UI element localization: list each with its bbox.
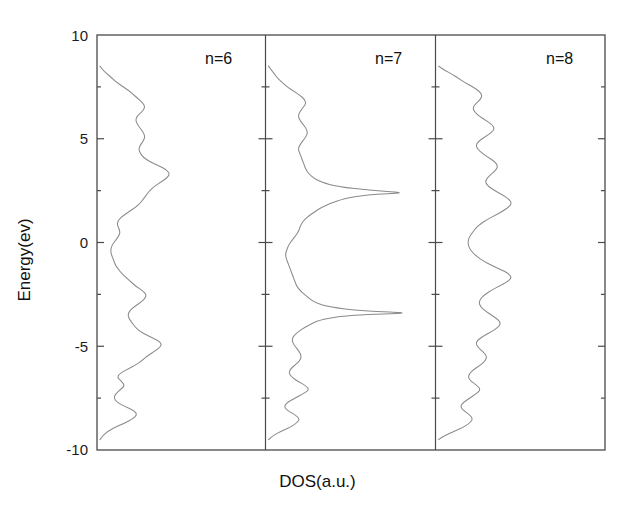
dos-figure: 10 5 0 -5 -10 n=6 n=7 n=8 Energy(ev) DOS…: [0, 0, 635, 514]
panel-label-n6: n=6: [205, 50, 232, 68]
dos-curve-n=7: [269, 66, 402, 440]
dos-curves: [100, 66, 511, 440]
y-tick-label-10: 10: [40, 27, 88, 44]
dos-curve-n=8: [439, 66, 512, 440]
dos-curve-n=6: [100, 66, 169, 440]
panel-label-n8: n=8: [546, 50, 573, 68]
axis-ticks: [97, 87, 605, 398]
axes-frame: [97, 35, 605, 450]
y-axis-label-container: Energy(ev): [10, 170, 40, 350]
panel-label-n7: n=7: [375, 50, 402, 68]
x-axis-label: DOS(a.u.): [0, 472, 635, 492]
y-tick-label-5: 5: [40, 130, 88, 147]
plot-canvas: [0, 0, 635, 514]
y-tick-label-0: 0: [40, 234, 88, 251]
y-tick-label-minus5: -5: [40, 338, 88, 355]
y-axis-label: Energy(ev): [15, 218, 35, 301]
y-tick-label-minus10: -10: [40, 441, 88, 458]
